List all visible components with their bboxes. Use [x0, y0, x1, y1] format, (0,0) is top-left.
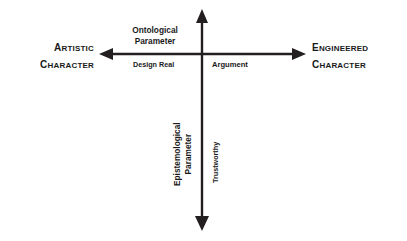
label-artistic-character: Artistic Character: [8, 38, 94, 71]
axes-group: [0, 0, 407, 241]
label-artistic-line1: Artistic: [8, 38, 94, 55]
arrowhead-down-icon: [195, 216, 209, 231]
arrowhead-up-icon: [196, 9, 208, 23]
label-epistemological-line1: Epistemological: [172, 122, 183, 186]
label-epistemological-parameter: Epistemological Parameter: [172, 122, 194, 186]
label-design-real: Design Real: [133, 60, 174, 69]
label-ontological-parameter: Ontological Parameter: [112, 25, 198, 47]
label-argument: Argument: [212, 60, 248, 69]
label-ontological-line2: Parameter: [112, 36, 198, 47]
arrowhead-right-icon: [292, 48, 306, 60]
label-artistic-line2: Character: [8, 55, 94, 72]
diagram-canvas: Artistic Character Engineered Character …: [0, 0, 407, 241]
label-ontological-line1: Ontological: [112, 25, 198, 36]
arrowhead-left-icon: [99, 48, 113, 60]
label-epistemological-line2: Parameter: [183, 122, 194, 186]
label-engineered-line2: Character: [312, 55, 404, 72]
label-trustworthy: Trustworthy: [211, 142, 220, 183]
label-engineered-line1: Engineered: [312, 38, 404, 55]
label-engineered-character: Engineered Character: [312, 38, 404, 71]
